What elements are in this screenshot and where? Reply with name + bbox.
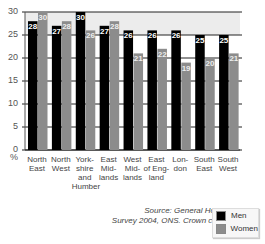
y-axis-unit-label: % [0, 152, 18, 162]
bar-women [181, 63, 191, 150]
legend: Men Women [212, 208, 259, 238]
legend-men-label: Men [231, 211, 247, 220]
bar-men [219, 35, 229, 150]
bar-value-label: 25 [219, 36, 228, 45]
legend-item-men: Men [213, 209, 258, 222]
x-category-label: NorthEast [24, 155, 50, 173]
bar-value-label: 21 [229, 54, 238, 63]
y-tick-label: 20 [0, 52, 18, 62]
bar-chart: 283027283026272826212622261925202521 051… [0, 0, 265, 244]
women-swatch [216, 224, 226, 234]
bar-women [86, 30, 96, 150]
y-tick-label: 30 [0, 6, 18, 16]
x-category-label: EastMid-lands [96, 155, 122, 182]
x-category-label: Lon-don [167, 155, 193, 173]
bar-value-label: 27 [52, 27, 61, 36]
bar-value-label: 28 [110, 22, 119, 31]
bar-men [28, 21, 38, 150]
x-category-label: NorthWest [48, 155, 74, 173]
bar-men [100, 26, 110, 150]
bar-value-label: 27 [100, 27, 109, 36]
legend-women-label: Women [231, 224, 258, 233]
x-category-label: York-shireandHumber [72, 155, 98, 191]
y-tick-label: 15 [0, 75, 18, 85]
bar-men [124, 30, 134, 150]
bar-men [171, 30, 181, 150]
men-swatch [216, 211, 226, 221]
bar-value-label: 26 [148, 31, 157, 40]
legend-item-women: Women [213, 222, 258, 235]
bar-women [110, 21, 120, 150]
bar-value-label: 30 [76, 13, 85, 22]
bar-women [229, 53, 239, 150]
bar-men [195, 35, 205, 150]
y-tick-label: 10 [0, 98, 18, 108]
bar-value-label: 19 [182, 64, 191, 73]
bar-men [147, 30, 157, 150]
x-category-label: SouthEast [191, 155, 217, 173]
bar-value-label: 21 [134, 54, 143, 63]
y-tick-label: 5 [0, 121, 18, 131]
bar-men [76, 12, 86, 150]
x-category-label: Eastof Eng-land [143, 155, 169, 182]
bar-value-label: 30 [38, 13, 47, 22]
bar-value-label: 22 [158, 50, 167, 59]
y-tick-label: 25 [0, 29, 18, 39]
bar-women [205, 58, 215, 150]
x-category-label: SouthWest [215, 155, 241, 173]
bar-value-label: 26 [172, 31, 181, 40]
bar-value-label: 25 [196, 36, 205, 45]
bar-women [62, 21, 71, 150]
bar-value-label: 28 [62, 22, 71, 31]
bar-value-label: 26 [86, 31, 95, 40]
bar-value-label: 28 [28, 22, 37, 31]
bar-women [38, 12, 48, 150]
bar-value-label: 26 [124, 31, 133, 40]
bar-men [52, 26, 62, 150]
x-category-label: WestMid-lands [120, 155, 146, 182]
bar-women [134, 53, 144, 150]
bar-women [157, 49, 167, 150]
bar-value-label: 20 [206, 59, 215, 68]
